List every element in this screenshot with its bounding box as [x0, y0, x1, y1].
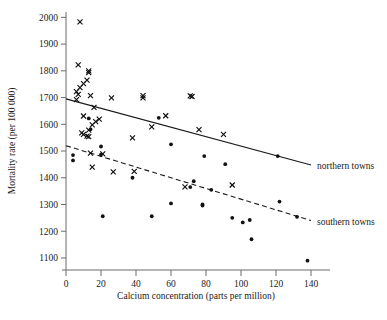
x-tick-label: 140 [304, 279, 319, 289]
data-point-cross [85, 78, 90, 83]
data-point-dot [150, 214, 154, 218]
data-point-dot [202, 154, 206, 158]
data-point-cross [183, 184, 188, 189]
trend-lines [66, 99, 311, 221]
data-point-cross [163, 113, 168, 118]
data-point-cross [76, 92, 81, 97]
data-point-cross [221, 132, 226, 137]
x-tick-label: 100 [234, 279, 249, 289]
data-point-cross [90, 165, 95, 170]
y-tick-label: 1500 [39, 146, 58, 156]
data-point-dot [278, 200, 282, 204]
data-point-cross [149, 124, 154, 129]
data-point-dot [89, 127, 93, 131]
data-point-dot [99, 145, 103, 149]
data-point-dot [276, 154, 280, 158]
legend-label-northern: northern towns [317, 161, 375, 171]
x-tick-label: 60 [166, 279, 176, 289]
y-axis-title: Mortality rate (per 100 000) [7, 88, 18, 195]
y-axis-ticks: 1100120013001400150016001700180019002000 [39, 13, 66, 264]
y-tick-label: 1600 [39, 120, 58, 130]
data-point-cross [111, 169, 116, 174]
data-point-cross [109, 95, 114, 100]
data-point-cross [130, 135, 135, 140]
x-axis-title: Calcium concentration (parts per million… [117, 291, 275, 302]
data-point-dot [169, 142, 173, 146]
data-point-cross [132, 169, 137, 174]
legend: northern townssouthern towns [317, 161, 375, 227]
data-point-cross [78, 19, 83, 24]
data-point-dot [306, 259, 310, 263]
data-point-dot [248, 218, 252, 222]
data-point-dot [169, 202, 173, 206]
x-tick-label: 120 [269, 279, 284, 289]
data-point-dot [131, 176, 135, 180]
data-point-dot [295, 215, 299, 219]
data-points [71, 19, 309, 262]
data-point-dot [209, 188, 213, 192]
x-tick-label: 40 [131, 279, 141, 289]
data-point-dot [99, 153, 103, 157]
chart-figure: 1100120013001400150016001700180019002000… [0, 0, 387, 320]
data-point-cross [81, 114, 86, 119]
y-tick-label: 1900 [39, 39, 58, 49]
y-tick-label: 1800 [39, 66, 58, 76]
data-point-cross [230, 182, 235, 187]
data-point-dot [87, 117, 91, 121]
data-point-dot [241, 221, 245, 225]
data-point-dot [250, 237, 254, 241]
data-point-dot [230, 216, 234, 220]
y-tick-label: 1200 [39, 227, 58, 237]
x-tick-label: 80 [201, 279, 211, 289]
y-tick-label: 1100 [39, 253, 58, 263]
data-point-dot [223, 162, 227, 166]
y-tick-label: 1400 [39, 173, 58, 183]
y-tick-label: 1700 [39, 93, 58, 103]
data-point-cross [197, 127, 202, 132]
data-point-dot [201, 204, 205, 208]
y-tick-label: 2000 [39, 13, 58, 23]
scatter-plot: 1100120013001400150016001700180019002000… [0, 0, 387, 320]
x-axis-ticks: 020406080100120140 [64, 270, 319, 289]
data-point-dot [101, 214, 105, 218]
data-point-dot [157, 116, 161, 120]
x-tick-label: 20 [96, 279, 106, 289]
data-point-dot [71, 153, 75, 157]
data-point-cross [88, 93, 93, 98]
legend-label-southern: southern towns [317, 217, 375, 227]
x-tick-label: 0 [64, 279, 69, 289]
data-point-cross [76, 62, 81, 67]
trend-line-southern [66, 146, 311, 221]
data-point-dot [71, 158, 75, 162]
y-tick-label: 1300 [39, 200, 58, 210]
data-point-dot [192, 179, 196, 183]
data-point-dot [188, 185, 192, 189]
